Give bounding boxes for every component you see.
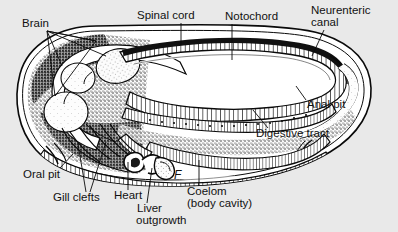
label-notochord: Notochord xyxy=(225,10,278,23)
label-oral-pit: Oral pit xyxy=(23,168,60,181)
label-anal-pit: Anal pit xyxy=(307,98,345,111)
label-digestive-tract: Digestive tract xyxy=(256,127,329,140)
label-gill-clefts: Gill clefts xyxy=(53,191,100,204)
label-spinal-cord: Spinal cord xyxy=(137,9,195,22)
label-coelom-line1: Coelom xyxy=(187,185,227,198)
label-coelom-line2: (body cavity) xyxy=(187,197,252,210)
label-brain: Brain xyxy=(22,17,49,30)
label-neurenteric-canal-line1: Neurenteric xyxy=(311,4,370,17)
label-neurenteric-canal-line2: canal xyxy=(311,16,339,29)
label-liver-line1: Liver xyxy=(137,202,162,215)
label-panel-letter: F xyxy=(174,169,181,182)
label-liver-line2: outgrowth xyxy=(136,214,187,227)
label-heart: Heart xyxy=(114,189,142,202)
